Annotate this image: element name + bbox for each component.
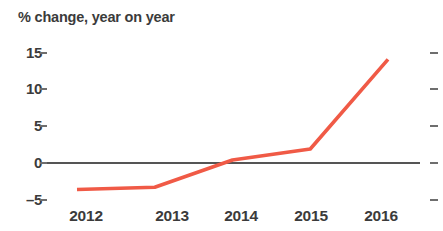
- x-axis-tick-label-2012: 2012: [69, 207, 103, 225]
- x-axis-tick-label-2015: 2015: [294, 207, 328, 225]
- x-axis-tick-label-2014: 2014: [224, 207, 258, 225]
- x-axis-tick-label-2016: 2016: [364, 207, 398, 225]
- chart-container: % change, year on year 15 10 5 0 –5 2012…: [0, 0, 443, 231]
- plot-area: [0, 0, 443, 231]
- data-series-line: [77, 59, 388, 189]
- x-axis-tick-label-2013: 2013: [155, 207, 189, 225]
